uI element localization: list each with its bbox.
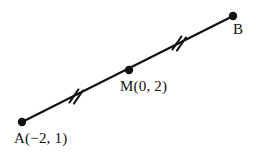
point-a-dot (18, 118, 26, 126)
point-b-label: B (233, 22, 243, 37)
geometry-figure: A(−2, 1) M(0, 2) B (0, 0, 256, 163)
point-m-dot (125, 66, 133, 74)
point-a-label: A(−2, 1) (14, 131, 67, 146)
point-b-dot (229, 12, 237, 20)
point-m-label: M(0, 2) (120, 79, 167, 94)
